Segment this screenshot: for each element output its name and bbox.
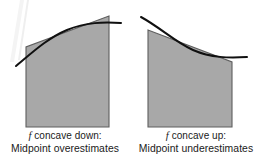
caption-line-1-text: concave down:	[31, 130, 101, 141]
caption-line-1: f concave down:	[0, 129, 130, 142]
caption-line-1-text: concave up:	[169, 130, 226, 141]
caption-concave-up: f concave up: Midpoint underestimates	[131, 129, 261, 155]
graphic-concave-down	[0, 0, 130, 130]
caption-line-1: f concave up:	[131, 129, 261, 142]
midpoint-region-concave-up	[148, 30, 232, 127]
panel-concave-down: f concave down: Midpoint overestimates	[0, 0, 130, 160]
panel-concave-up: f concave up: Midpoint underestimates	[131, 0, 261, 160]
figure-root: f concave down: Midpoint overestimates f…	[0, 0, 261, 160]
midpoint-region-concave-down	[26, 16, 109, 127]
caption-concave-down: f concave down: Midpoint overestimates	[0, 129, 130, 155]
caption-line-2: Midpoint overestimates	[0, 142, 130, 155]
caption-line-2: Midpoint underestimates	[131, 142, 261, 155]
graphic-concave-up	[131, 0, 261, 130]
